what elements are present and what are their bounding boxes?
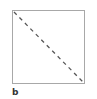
- panel-label: b: [12, 87, 18, 97]
- square-frame: [12, 10, 85, 84]
- diagonal-dashed-line: [13, 11, 84, 83]
